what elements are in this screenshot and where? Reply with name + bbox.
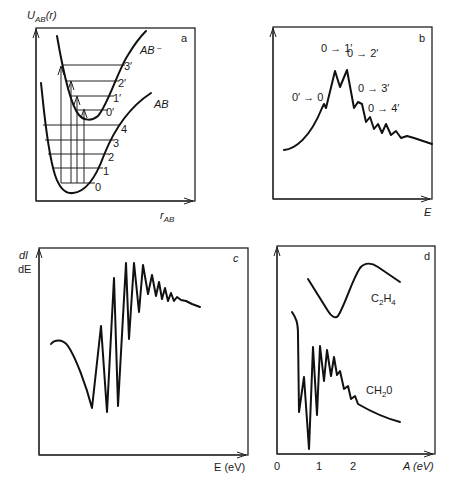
panel-c-spectrum-curve bbox=[51, 263, 200, 412]
transition-label-0p-0: 0′ → 0 bbox=[292, 91, 323, 103]
panel-a: 0 1 2 3 4 0′ 1′ 2′ 3′ AB⁻ AB a UAB(r) rA… bbox=[27, 9, 195, 224]
panel-d-x-axis-arrow-icon bbox=[277, 451, 433, 457]
ab-minus-level-3-label: 3′ bbox=[124, 60, 132, 72]
panel-b: 0′ → 0 0 → 1′ 0 → 2′ 0 → 3′ 0 → 4′ b E bbox=[270, 27, 432, 218]
c2h4-label: C2H4 bbox=[371, 292, 396, 307]
ab-potential-curve bbox=[41, 83, 151, 193]
panel-b-x-axis-label: E bbox=[424, 206, 432, 218]
c2h4-curve bbox=[308, 264, 400, 317]
panel-d-label: d bbox=[424, 250, 430, 262]
ab-curve-label: AB bbox=[153, 98, 169, 110]
ab-minus-level-0-label: 0′ bbox=[106, 106, 114, 118]
panel-c-x-axis-label: E (eV) bbox=[214, 461, 245, 473]
panel-a-x-axis-arrow-icon bbox=[36, 198, 193, 204]
ab-level-4-label: 4 bbox=[121, 123, 127, 135]
ab-level-1-label: 1 bbox=[103, 165, 109, 177]
transition-label-0-4p: 0 → 4′ bbox=[368, 102, 399, 114]
panel-d-y-axis-arrow-icon bbox=[274, 247, 280, 454]
panel-d-x-tick-2: 2 bbox=[350, 460, 356, 472]
panel-b-label: b bbox=[419, 32, 425, 44]
panel-c-y-axis-label-denominator: dE bbox=[18, 263, 31, 275]
panel-c-x-axis-arrow-icon bbox=[39, 452, 246, 458]
panel-d: C2H4 CH20 0 1 2 d A (eV) bbox=[274, 246, 435, 472]
ab-minus-level-2-label: 2′ bbox=[118, 77, 126, 89]
panel-b-x-axis-arrow-icon bbox=[273, 196, 430, 202]
panel-a-y-axis-arrow-icon bbox=[33, 29, 39, 201]
transition-label-0-3p: 0 → 3′ bbox=[358, 82, 389, 94]
figure-canvas: 0 1 2 3 4 0′ 1′ 2′ 3′ AB⁻ AB a UAB(r) rA… bbox=[0, 0, 449, 488]
ab-minus-potential-curve bbox=[57, 31, 146, 120]
panel-a-y-axis-label: UAB(r) bbox=[27, 9, 57, 24]
ab-level-2-label: 2 bbox=[108, 151, 114, 163]
panel-c-y-axis-label-numerator: dI bbox=[19, 249, 28, 261]
panel-c-label: c bbox=[233, 252, 239, 264]
transition-label-0-2p: 0 → 2′ bbox=[347, 47, 378, 59]
panel-c-y-axis-arrow-icon bbox=[36, 249, 42, 455]
ab-minus-curve-label: AB⁻ bbox=[139, 44, 162, 56]
ch2o-label: CH20 bbox=[366, 384, 392, 399]
panel-a-label: a bbox=[181, 32, 188, 44]
ab-level-3-label: 3 bbox=[113, 137, 119, 149]
ab-level-0-label: 0 bbox=[95, 181, 101, 193]
panel-b-y-axis-arrow-icon bbox=[270, 28, 276, 199]
ch2o-curve bbox=[292, 312, 400, 449]
panel-d-x-tick-1: 1 bbox=[316, 460, 322, 472]
panel-c: dI dE c E (eV) bbox=[18, 248, 248, 473]
panel-d-x-axis-label: A (eV) bbox=[402, 460, 434, 472]
ab-minus-level-1-label: 1′ bbox=[113, 92, 121, 104]
panel-d-x-tick-0: 0 bbox=[274, 460, 280, 472]
panel-a-x-axis-label: rAB bbox=[160, 209, 175, 224]
